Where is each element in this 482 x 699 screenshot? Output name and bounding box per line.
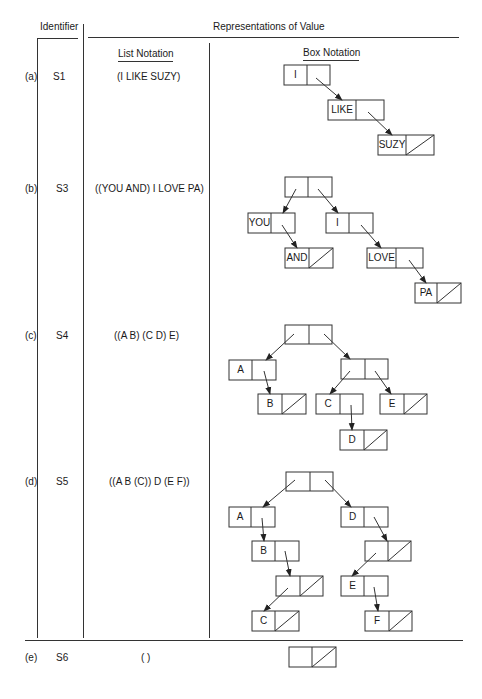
box-label: LIKE	[328, 104, 356, 115]
box-label: B	[252, 545, 275, 556]
cons-cell-sub-c	[341, 359, 388, 379]
box-label: E	[341, 580, 364, 591]
box-label: PA	[415, 287, 437, 298]
box-notation-diagrams	[0, 0, 482, 699]
box-label: LOVE	[367, 252, 396, 263]
box-label: D	[341, 511, 364, 522]
box-label: F	[365, 615, 389, 626]
box-label: SUZY	[378, 139, 406, 150]
box-label: A	[229, 364, 252, 375]
box-label: AND	[285, 252, 309, 263]
box-label: E	[380, 398, 404, 409]
box-label: A	[229, 511, 251, 522]
box-label: C	[316, 398, 340, 409]
cons-cell-sub-d-right	[365, 541, 411, 561]
pointer-arrow	[368, 112, 392, 135]
box-label: D	[340, 434, 364, 445]
box-label: YOU	[248, 217, 271, 228]
box-label: C	[252, 615, 275, 626]
cons-cell-nil-e	[289, 647, 336, 667]
box-label: I	[326, 217, 349, 228]
box-label: I	[284, 69, 307, 80]
nil-slash	[406, 135, 434, 155]
cons-cell-root-b	[285, 177, 332, 197]
box-label: B	[258, 398, 282, 409]
pointer-arrow	[316, 78, 342, 100]
